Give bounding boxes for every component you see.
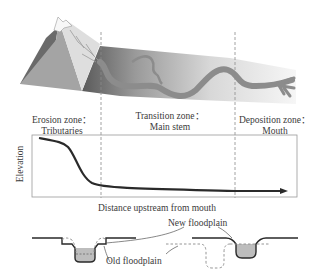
new-floodplain-leader-left xyxy=(106,227,184,243)
old-floodplain-leader-right xyxy=(166,246,178,254)
zone-label-deposition: Deposition zone： Mouth xyxy=(235,115,315,137)
profile-chart-frame xyxy=(32,135,297,197)
zone-subtitle-deposition: Mouth xyxy=(235,126,315,137)
water-right xyxy=(236,244,256,258)
cross-section-right xyxy=(166,238,298,268)
zone-title-deposition: Deposition zone： xyxy=(235,115,315,126)
zone-label-transition: Transition zone： Main stem xyxy=(128,111,212,133)
elevation-profile-curve xyxy=(39,138,280,191)
landscape-illustration xyxy=(20,17,296,104)
new-floodplain-leader-right xyxy=(218,227,232,238)
y-axis-label: Elevation xyxy=(15,139,25,189)
zone-subtitle-transition: Main stem xyxy=(128,122,212,133)
x-axis-label: Distance upstream from mouth xyxy=(98,203,216,213)
zone-title-transition: Transition zone： xyxy=(128,111,212,122)
new-floodplain-label: New floodplain xyxy=(168,218,227,228)
old-floodplain-label: Old floodplain xyxy=(106,256,162,266)
water-left xyxy=(75,248,95,262)
zone-subtitle-erosion: Tributaries xyxy=(26,126,98,137)
river-zones-diagram: Erosion zone： Tributaries Transition zon… xyxy=(0,0,316,272)
profile-arrowhead xyxy=(280,188,288,194)
zone-title-erosion: Erosion zone： xyxy=(26,115,98,126)
zone-label-erosion: Erosion zone： Tributaries xyxy=(26,115,98,137)
